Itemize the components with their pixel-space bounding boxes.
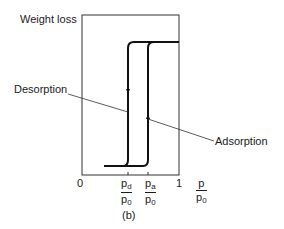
adsorption-label: Adsorption — [215, 136, 268, 147]
plot-frame — [82, 15, 179, 175]
desorption-leader — [68, 94, 128, 112]
desorption-label: Desorption — [14, 84, 67, 95]
desorption-arrow-icon — [126, 89, 130, 94]
x-tick-one: 1 — [176, 178, 182, 189]
hysteresis-diagram — [0, 0, 284, 229]
x-tick-zero: 0 — [77, 178, 83, 189]
desorption-curve — [104, 42, 179, 166]
adsorption-leader — [148, 119, 214, 141]
pd-fraction: pd p0 — [121, 178, 132, 207]
adsorption-arrow-icon — [146, 114, 150, 119]
y-axis-label: Weight loss — [20, 14, 77, 25]
x-axis-fraction: p p0 — [196, 178, 207, 205]
figure-caption: (b) — [122, 210, 135, 221]
pa-fraction: pa p0 — [145, 178, 156, 207]
adsorption-curve — [123, 42, 179, 166]
